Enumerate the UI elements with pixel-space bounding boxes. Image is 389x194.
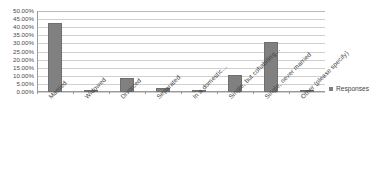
x-axis-label-slot: Divorced <box>109 93 145 173</box>
chart-title <box>150 0 270 4</box>
x-axis-label-slot: Widowed <box>73 93 109 173</box>
x-axis: MarriedWidowedDivorcedSeparatedIn a dome… <box>37 93 325 173</box>
y-axis: 0.00%5.00%10.00%15.00%20.00%25.00%30.00%… <box>0 8 36 92</box>
y-axis-tick-label: 45.00% <box>0 16 34 22</box>
legend-swatch-responses <box>329 87 333 91</box>
y-axis-tick-label: 15.00% <box>0 65 34 71</box>
x-axis-label-slot: Married <box>37 93 73 173</box>
x-axis-label-slot: In a domestic… <box>181 93 217 173</box>
legend: Responses <box>329 85 369 93</box>
y-axis-tick-label: 35.00% <box>0 32 34 38</box>
y-axis-tick-label: 25.00% <box>0 49 34 55</box>
bar-slot <box>37 11 73 92</box>
y-axis-tick-label: 5.00% <box>0 81 34 87</box>
y-axis-tick-label: 50.00% <box>0 8 34 14</box>
y-axis-tick-label: 30.00% <box>0 40 34 46</box>
x-axis-label-slot: Single, but cohabiting… <box>217 93 253 173</box>
x-axis-label-slot: Single, never married <box>253 93 289 173</box>
bar-chart: 0.00%5.00%10.00%15.00%20.00%25.00%30.00%… <box>0 0 389 194</box>
y-axis-tick-label: 40.00% <box>0 24 34 30</box>
x-axis-label-slot: Other (please specify) <box>289 93 325 173</box>
y-axis-tick-label: 0.00% <box>0 89 34 95</box>
legend-label-responses: Responses <box>336 85 369 93</box>
y-axis-tick-label: 10.00% <box>0 73 34 79</box>
x-axis-label-slot: Separated <box>145 93 181 173</box>
y-axis-tick-label: 20.00% <box>0 57 34 63</box>
